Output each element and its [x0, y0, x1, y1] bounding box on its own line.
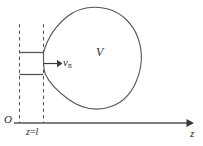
z-equals-l-label: z=l	[26, 127, 38, 137]
control-volume-label: V	[96, 46, 103, 58]
z-axis-label: z	[190, 128, 194, 139]
velocity-arrow-head	[57, 60, 63, 67]
axis-origin-label: O	[4, 114, 12, 125]
velocity-label: vn	[63, 57, 72, 68]
diagram-svg	[0, 0, 203, 146]
z-equals-l-value: l	[36, 126, 39, 137]
z-axis-arrow-head	[187, 119, 195, 127]
velocity-label-subscript: n	[68, 61, 72, 70]
control-volume-outline	[44, 7, 142, 109]
figure-canvas: O V vn z z=l	[0, 0, 203, 146]
